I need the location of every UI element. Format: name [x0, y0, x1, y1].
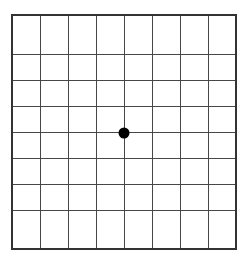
grid-cell	[68, 106, 96, 132]
grid-wrapper	[11, 14, 237, 250]
grid-cell	[124, 106, 152, 132]
grid-cell	[12, 54, 40, 80]
grid-cell	[208, 132, 236, 158]
grid-cell	[124, 210, 152, 249]
grid-row	[12, 54, 236, 80]
grid-cell	[208, 80, 236, 106]
grid-cell	[12, 15, 40, 54]
grid-cell	[68, 158, 96, 184]
grid-cell	[180, 158, 208, 184]
grid-cell	[152, 15, 180, 54]
grid-cell	[208, 106, 236, 132]
grid-cell	[40, 106, 68, 132]
grid-row	[12, 210, 236, 249]
grid-cell	[124, 184, 152, 210]
grid-row	[12, 15, 236, 54]
grid-cell	[208, 210, 236, 249]
grid-cell	[208, 184, 236, 210]
grid-cell	[152, 184, 180, 210]
grid-cell	[124, 132, 152, 158]
amsler-grid-chart: Amsler grid Central fixation dot	[0, 0, 249, 264]
grid-cell	[40, 184, 68, 210]
grid-cell	[96, 158, 124, 184]
grid-cell	[68, 210, 96, 249]
grid-cell	[124, 15, 152, 54]
grid-cell	[12, 158, 40, 184]
grid-row	[12, 80, 236, 106]
grid-cell	[12, 80, 40, 106]
grid-cell	[152, 210, 180, 249]
grid-cell	[12, 210, 40, 249]
grid-cell	[40, 132, 68, 158]
grid-cell	[40, 210, 68, 249]
grid-cell	[180, 54, 208, 80]
grid-cell	[40, 15, 68, 54]
grid-cell	[180, 80, 208, 106]
grid-cell	[208, 158, 236, 184]
grid-cell	[124, 80, 152, 106]
grid-cell	[68, 132, 96, 158]
grid-cell	[124, 54, 152, 80]
grid-cell	[96, 15, 124, 54]
grid-row	[12, 158, 236, 184]
grid-cell	[124, 158, 152, 184]
grid-cell	[68, 54, 96, 80]
grid-cell	[68, 15, 96, 54]
grid-cell	[12, 132, 40, 158]
grid-row	[12, 184, 236, 210]
grid-cell	[180, 15, 208, 54]
grid-cell	[152, 158, 180, 184]
grid-body	[12, 15, 236, 249]
grid-cell	[12, 106, 40, 132]
grid-row	[12, 106, 236, 132]
grid-cell	[180, 184, 208, 210]
grid-cell	[152, 106, 180, 132]
grid-row	[12, 132, 236, 158]
grid-cell	[208, 54, 236, 80]
grid-cell	[96, 106, 124, 132]
grid-cell	[40, 158, 68, 184]
grid-cell	[152, 80, 180, 106]
grid-cell	[68, 184, 96, 210]
grid-cell	[96, 210, 124, 249]
amsler-grid-table	[11, 14, 237, 250]
grid-cell	[96, 80, 124, 106]
grid-cell	[208, 15, 236, 54]
grid-cell	[180, 210, 208, 249]
grid-cell	[96, 184, 124, 210]
grid-cell	[96, 54, 124, 80]
grid-cell	[68, 80, 96, 106]
grid-cell	[40, 54, 68, 80]
grid-cell	[152, 54, 180, 80]
grid-cell	[152, 132, 180, 158]
grid-cell	[40, 80, 68, 106]
grid-cell	[180, 106, 208, 132]
grid-cell	[96, 132, 124, 158]
grid-cell	[180, 132, 208, 158]
grid-cell	[12, 184, 40, 210]
